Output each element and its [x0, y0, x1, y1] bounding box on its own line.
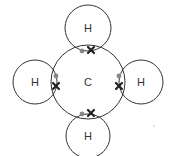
electron-dot-icon	[80, 112, 85, 117]
atom-labels: CHHHH	[31, 22, 145, 142]
electron-dot-icon	[117, 74, 122, 79]
electron-dot-icon	[80, 49, 85, 54]
hydrogen-label-right: H	[137, 76, 145, 88]
hydrogen-label-bottom: H	[84, 130, 92, 142]
hydrogen-label-top: H	[84, 22, 92, 34]
electron-cross-icon	[88, 110, 94, 116]
hydrogen-label-left: H	[31, 76, 39, 88]
methane-diagram: CHHHH	[0, 0, 174, 156]
stray-mark	[153, 125, 155, 127]
electron-dot-icon	[54, 74, 59, 79]
carbon-label: C	[84, 76, 92, 88]
